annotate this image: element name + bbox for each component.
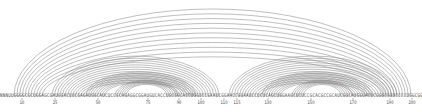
tick-label: 100: [198, 100, 205, 105]
tick-label: 90: [177, 100, 182, 105]
arc-diagram-panel: NNNUUGGGGCGCUGGAGCGAUGGACUUCGAGAUGGCAUCU…: [0, 0, 422, 112]
tick-label: 115: [234, 100, 241, 105]
sequence-row: NNNUUGGGGCGCUGGAGCGAUGGACUUCGAGAUGGCAUCU…: [0, 92, 422, 100]
arc-family: [14, 9, 411, 96]
tick-label: 25: [53, 100, 58, 105]
tick-label: 150: [308, 100, 315, 105]
tick-label: 190: [387, 100, 394, 105]
tick-label: 170: [350, 100, 357, 105]
base-pair-arc: [25, 28, 400, 96]
sequence-text: NNNUUGGGGCGCUGGAGCGAUGGACUUCGAGAUGGCAUCU…: [0, 92, 422, 100]
tick-label-row: 1025507590100110115130150170190200: [0, 100, 422, 112]
tick-label: 130: [265, 100, 272, 105]
tick-label: 75: [146, 100, 151, 105]
tick-label: 50: [96, 100, 101, 105]
base-pair-arc: [14, 9, 411, 96]
base-pair-arc: [42, 57, 383, 96]
tick-label: 200: [409, 100, 416, 105]
tick-label: 10: [20, 100, 25, 105]
tick-label: 110: [221, 100, 228, 105]
